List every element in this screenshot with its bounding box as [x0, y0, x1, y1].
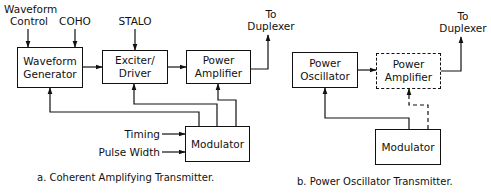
pulse-width-label: Pulse Width: [92, 146, 160, 158]
modulator-block-a: Modulator: [185, 126, 250, 162]
exciter-driver-block: Exciter/ Driver: [102, 50, 168, 84]
modulator-block-b: Modulator: [375, 129, 441, 165]
power-amplifier-block-a: Power Amplifier: [186, 50, 251, 84]
timing-label: Timing: [118, 128, 160, 140]
waveform-generator-block: Waveform Generator: [17, 47, 83, 88]
to-duplexer-label-a: To Duplexer: [246, 8, 296, 32]
modulator-text-a: Modulator: [191, 138, 244, 151]
coho-label: COHO: [58, 15, 92, 27]
modulator-text-b: Modulator: [381, 141, 434, 154]
caption-b: b. Power Oscillator Transmitter.: [297, 176, 453, 187]
power-amplifier-text-a: Power Amplifier: [192, 54, 246, 80]
waveform-generator-text: Waveform Generator: [23, 55, 78, 81]
stalo-label: STALO: [118, 15, 152, 27]
waveform-control-label: Waveform Control: [4, 3, 54, 27]
power-oscillator-block: Power Oscillator: [292, 52, 358, 88]
caption-a: a. Coherent Amplifying Transmitter.: [37, 172, 214, 183]
power-oscillator-text: Power Oscillator: [298, 57, 353, 83]
to-duplexer-label-b: To Duplexer: [438, 10, 488, 34]
exciter-driver-text: Exciter/ Driver: [111, 54, 159, 80]
power-amplifier-text-b: Power Amplifier: [382, 58, 436, 84]
power-amplifier-block-b: Power Amplifier: [376, 53, 441, 89]
